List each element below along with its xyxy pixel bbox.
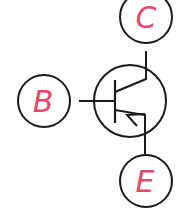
emitter-arrow-icon bbox=[127, 114, 145, 126]
collector-label: C bbox=[136, 0, 157, 35]
emitter-label: E bbox=[136, 164, 155, 199]
transistor-diagram: C B E bbox=[0, 0, 188, 222]
collector-lead bbox=[115, 51, 146, 92]
emitter-lead bbox=[115, 110, 145, 154]
base-label: B bbox=[33, 84, 54, 119]
